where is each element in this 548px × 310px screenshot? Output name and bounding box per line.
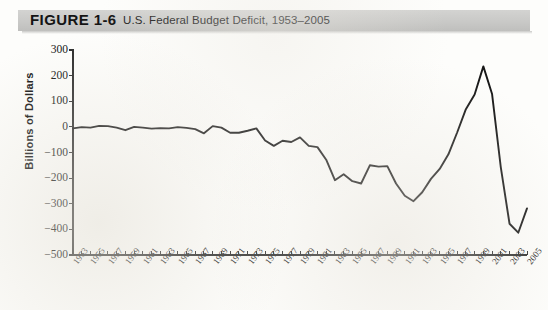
deficit-line-plot xyxy=(0,0,548,310)
chart-area: Billions of Dollars 3002001000−100−200−3… xyxy=(0,0,548,310)
deficit-series-line xyxy=(73,66,527,232)
